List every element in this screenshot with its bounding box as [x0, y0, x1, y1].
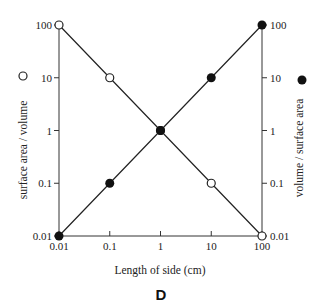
x-axis-label: Length of side (cm) [114, 264, 205, 277]
left-y-tick-label: 0.01 [33, 230, 52, 242]
right-y-axis-label: volume / surface area [293, 99, 305, 198]
right-y-tick-label: 10 [270, 72, 282, 84]
right-y-tick-label: 1 [270, 125, 276, 137]
filled-circle-marker [258, 21, 267, 30]
x-tick-label: 10 [206, 240, 218, 252]
filled-circle-marker [105, 179, 114, 188]
left-y-tick-label: 10 [41, 72, 53, 84]
chart: 0.010.11101000.010.11101000.010.1110100 … [0, 0, 323, 305]
right-y-tick-label: 0.1 [270, 177, 284, 189]
right-y-tick-label: 0.01 [270, 230, 289, 242]
x-tick-label: 0.1 [103, 240, 117, 252]
left-y-tick-label: 100 [36, 19, 53, 31]
open-circle-marker [106, 74, 114, 82]
filled-circle-marker [156, 126, 165, 135]
filled-circle-legend-icon [298, 76, 307, 85]
x-tick-label: 1 [158, 240, 164, 252]
filled-circle-marker [207, 73, 216, 82]
ticks: 0.010.11101000.010.11101000.010.1110100 [33, 19, 290, 252]
open-circle-marker [258, 232, 266, 240]
x-tick-label: 100 [254, 240, 271, 252]
panel-label: D [156, 286, 167, 303]
filled-circle-marker [55, 232, 64, 241]
left-y-tick-label: 1 [47, 125, 53, 137]
left-y-axis-label: surface area / volume [17, 101, 29, 200]
right-y-tick-label: 100 [270, 19, 287, 31]
open-circle-legend-icon [19, 72, 27, 80]
open-circle-marker [55, 21, 63, 29]
left-y-tick-label: 0.1 [38, 177, 52, 189]
x-tick-label: 0.01 [49, 240, 68, 252]
open-circle-marker [207, 179, 215, 187]
